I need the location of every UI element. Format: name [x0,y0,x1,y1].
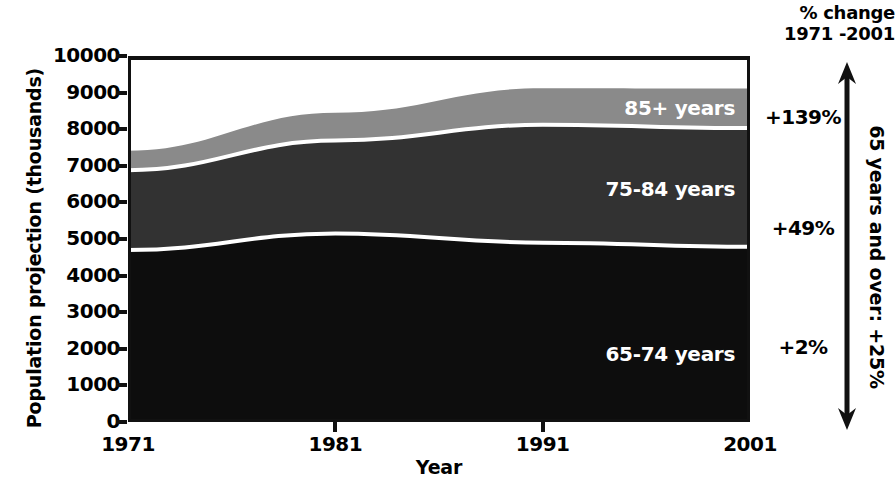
plot-area: 65-74 years75-84 years85+ years [128,56,750,422]
x-axis-title: Year [416,456,462,478]
x-tick-label: 1981 [308,432,362,456]
y-tick-label: 1000 [20,374,120,394]
y-tick-mark [116,347,127,351]
y-tick-mark [116,274,127,278]
x-tick-label: 2001 [723,432,777,456]
percent-change-85+-years: +139% [760,105,846,129]
y-tick-mark [116,164,127,168]
percent-change-75-84-years: +49% [760,216,846,240]
chart-figure: Population projection (thousands) 010002… [0,0,895,479]
series-label-65-74-years: 65-74 years [606,342,736,366]
y-tick-mark [116,91,127,95]
y-tick-mark [116,310,127,314]
y-tick-label: 5000 [20,228,120,248]
y-tick-mark [116,383,127,387]
y-tick-label: 8000 [20,118,120,138]
y-tick-mark [116,200,127,204]
y-tick-mark [116,54,127,58]
series-label-85+-years: 85+ years [624,96,735,120]
double-headed-vertical-arrow-icon [838,62,856,430]
x-tick-mark [333,422,337,432]
series-label-75-84-years: 75-84 years [606,177,736,201]
y-tick-label: 4000 [20,265,120,285]
percent-change-header-line1: % change [760,2,895,23]
y-tick-label: 9000 [20,82,120,102]
y-tick-label: 7000 [20,155,120,175]
x-tick-label: 1991 [516,432,570,456]
y-tick-mark [116,127,127,131]
y-tick-label: 6000 [20,191,120,211]
x-tick-mark [541,422,545,432]
y-tick-mark [116,237,127,241]
y-tick-mark [116,420,127,424]
percent-change-65-74-years: +2% [760,335,846,359]
y-tick-label: 3000 [20,301,120,321]
percent-change-header: % change 1971 -2001 [760,2,895,44]
y-tick-label: 10000 [20,45,120,65]
area-band-65-74-years [128,234,750,422]
percent-change-header-line2: 1971 -2001 [760,23,895,44]
total-bracket-label: 65 years and over: +25% [866,77,888,437]
y-tick-label: 0 [20,411,120,431]
y-tick-label: 2000 [20,338,120,358]
y-axis-tick-labels: 0100020003000400050006000700080009000100… [16,0,120,479]
x-tick-label: 1971 [101,432,155,456]
